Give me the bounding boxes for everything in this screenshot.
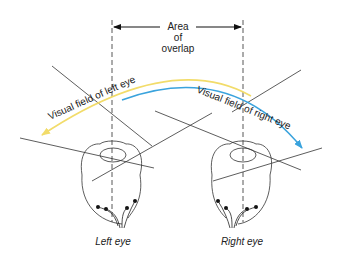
left-field-label: Visual field of left eye (46, 73, 137, 122)
right-eye-sightline-b (213, 148, 322, 181)
right-field-label: Visual field of right eye (195, 84, 293, 132)
left-eye-sightline-lower (20, 138, 154, 168)
binocular-vision-diagram: Visual field of left eye Visual field of… (0, 0, 341, 262)
left-eye-label: Left eye (88, 236, 138, 247)
overlap-label-line3: overlap (158, 43, 198, 54)
right-eye-label: Right eye (212, 236, 272, 247)
overlap-label: Area of overlap (158, 21, 198, 54)
overlap-label-line2: of (158, 32, 198, 43)
left-eye-sightline-cross (92, 113, 212, 181)
overlap-label-line1: Area (158, 21, 198, 32)
